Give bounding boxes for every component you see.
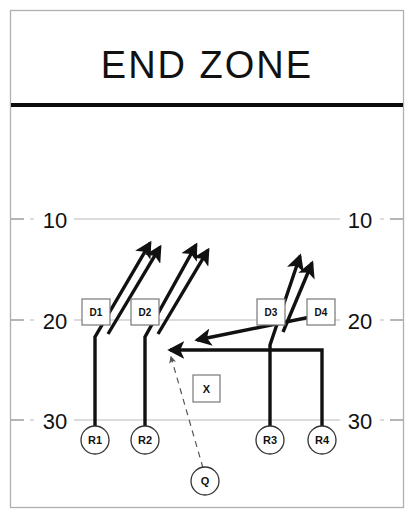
yard-label-right-30: 30 <box>348 409 372 434</box>
route-d2 <box>158 250 208 334</box>
endzone-title: END ZONE <box>101 44 313 86</box>
yard-label-right-10: 10 <box>348 208 372 233</box>
pass-route-qb <box>171 357 203 468</box>
defender-d1[interactable]: D1 <box>82 299 110 325</box>
defender-d2[interactable]: D2 <box>131 299 159 325</box>
yardline-20-group: 20 20 <box>11 307 403 334</box>
receiver-label-r3: R3 <box>263 434 277 446</box>
receiver-r1[interactable]: R1 <box>81 426 109 454</box>
defender-label-d3: D3 <box>265 307 278 318</box>
quarterback-q[interactable]: Q <box>191 467 219 495</box>
defender-label-d4: D4 <box>315 307 328 318</box>
marker-x[interactable]: X <box>193 375 220 402</box>
route-r3 <box>270 256 300 430</box>
yard-label-right-20: 20 <box>348 309 372 334</box>
receiver-r2[interactable]: R2 <box>131 426 159 454</box>
receiver-label-r2: R2 <box>138 434 152 446</box>
marker-label-x: X <box>203 383 211 395</box>
route-r2 <box>145 245 196 430</box>
yard-label-left-10: 10 <box>43 208 67 233</box>
yard-label-left-30: 30 <box>43 409 67 434</box>
defender-d4[interactable]: D4 <box>307 299 335 325</box>
defender-label-d2: D2 <box>139 307 152 318</box>
yardline-10-group: 10 10 <box>11 206 403 233</box>
quarterback-label-q: Q <box>201 475 210 487</box>
defender-d3[interactable]: D3 <box>257 299 285 325</box>
route-r1 <box>95 243 150 430</box>
receiver-label-r1: R1 <box>88 434 102 446</box>
yard-label-left-20: 20 <box>43 309 67 334</box>
receiver-r4[interactable]: R4 <box>308 426 336 454</box>
field-canvas: END ZONE 10 10 20 20 <box>0 0 414 518</box>
yardline-30-group: 30 30 <box>11 407 403 434</box>
receiver-label-r4: R4 <box>315 434 330 446</box>
football-play-diagram: END ZONE 10 10 20 20 <box>0 0 414 518</box>
receiver-r3[interactable]: R3 <box>256 426 284 454</box>
defender-label-d1: D1 <box>90 307 103 318</box>
